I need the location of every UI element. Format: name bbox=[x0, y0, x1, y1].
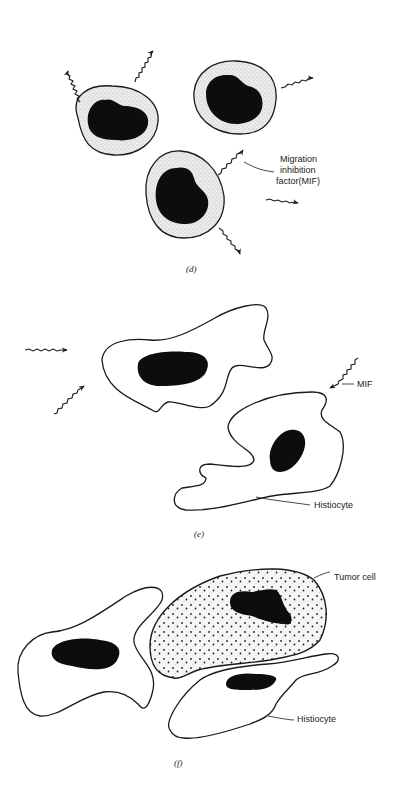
label-mif-full-2: inhibition bbox=[280, 165, 316, 175]
histiocyte-e-2 bbox=[174, 392, 343, 510]
mif-wave-arrow bbox=[54, 386, 84, 414]
label-histiocyte-f: Histiocyte bbox=[297, 714, 336, 724]
panel-f: Tumor cell Histiocyte (f) bbox=[18, 569, 376, 768]
lymphocyte-1 bbox=[76, 86, 158, 155]
mif-wave-arrow bbox=[266, 199, 298, 203]
label-mif-full-1: Migration bbox=[280, 154, 317, 164]
caption-e: (e) bbox=[194, 529, 204, 539]
label-histiocyte-e: Histiocyte bbox=[314, 500, 353, 510]
mif-wave-arrow bbox=[67, 71, 80, 102]
panel-d: Migration inhibition factor(MIF) (d) bbox=[67, 51, 320, 274]
mif-wave-arrow bbox=[25, 349, 67, 351]
immunology-figure: Migration inhibition factor(MIF) (d) MIF… bbox=[0, 0, 398, 790]
caption-d: (d) bbox=[186, 264, 197, 274]
caption-f: (f) bbox=[174, 758, 183, 768]
mif-wave-arrow bbox=[219, 228, 240, 254]
lymphocyte-2 bbox=[194, 61, 276, 134]
label-mif: MIF bbox=[357, 379, 373, 389]
mif-wave-arrow bbox=[281, 78, 313, 88]
label-tumor-cell: Tumor cell bbox=[334, 572, 376, 582]
mif-wave-arrow bbox=[218, 150, 243, 175]
lymphocyte-3 bbox=[146, 151, 224, 238]
panel-e: MIF Histiocyte (e) bbox=[25, 305, 373, 539]
mif-wave-arrow bbox=[135, 51, 153, 82]
mif-wave-arrow bbox=[330, 358, 358, 388]
label-mif-full-3: factor(MIF) bbox=[276, 176, 320, 186]
